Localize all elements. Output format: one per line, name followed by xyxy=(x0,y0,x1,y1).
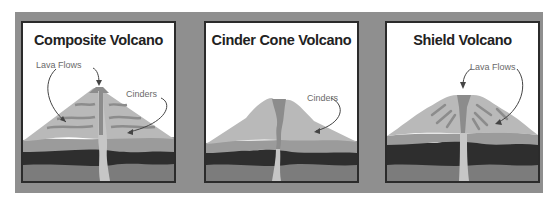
panel-title: Composite Volcano xyxy=(23,32,174,48)
panel-title: Shield Volcano xyxy=(387,32,538,48)
panel-title: Cinder Cone Volcano xyxy=(206,32,357,48)
panel-shield-volcano: Shield Volcano Lava Flows xyxy=(385,21,540,183)
label-lava-flows: Lava Flows xyxy=(36,60,82,70)
panel-composite-volcano: Composite Volcano Lava Flows Cinders xyxy=(21,21,176,183)
label-cinders: Cinders xyxy=(126,89,157,99)
panel-cinder-cone-volcano: Cinder Cone Volcano Cinders xyxy=(204,21,359,183)
label-lava-flows: Lava Flows xyxy=(470,62,516,72)
label-cinders: Cinders xyxy=(307,93,338,103)
